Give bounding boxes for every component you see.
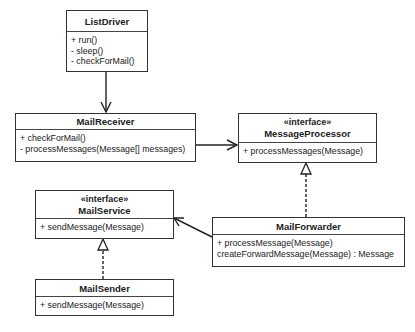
class-mailsender: MailSender + sendMessage(Message) bbox=[35, 279, 174, 316]
class-mailforwarder: MailForwarder + processMessage(Message) … bbox=[212, 217, 405, 267]
class-methods: + sendMessage(Message) bbox=[36, 297, 173, 313]
method: + processMessage(Message) bbox=[217, 238, 400, 249]
edge-listdriver-to-mailreceiver bbox=[101, 71, 111, 112]
class-header: MailSender bbox=[36, 280, 173, 297]
class-messageprocessor: «interface» MessageProcessor + processMe… bbox=[238, 113, 377, 163]
method: - checkForMail() bbox=[71, 56, 143, 67]
edge-mailreceiver-to-messageprocessor bbox=[195, 140, 237, 150]
method: + sendMessage(Message) bbox=[40, 300, 169, 311]
class-mailservice: «interface» MailService + sendMessage(Me… bbox=[35, 190, 174, 239]
method: + sendMessage(Message) bbox=[40, 222, 169, 233]
class-header: ListDriver bbox=[67, 11, 147, 32]
stereotype: «interface» bbox=[36, 194, 173, 205]
method: + processMessages(Message) bbox=[243, 146, 372, 157]
class-methods: + processMessage(Message) createForwardM… bbox=[213, 235, 404, 261]
method: + run() bbox=[71, 35, 143, 46]
class-name: MailReceiver bbox=[16, 116, 195, 127]
class-methods: + checkForMail() - processMessages(Messa… bbox=[16, 130, 195, 156]
edge-mailforwarder-to-mailservice bbox=[174, 218, 212, 237]
class-mailreceiver: MailReceiver + checkForMail() - processM… bbox=[15, 113, 196, 162]
method: - sleep() bbox=[71, 46, 143, 57]
class-name: MessageProcessor bbox=[239, 128, 376, 139]
class-header: MailForwarder bbox=[213, 218, 404, 235]
class-methods: + sendMessage(Message) bbox=[36, 219, 173, 235]
edge-mailsender-realizes-mailservice bbox=[98, 239, 108, 279]
class-methods: + run() - sleep() - checkForMail() bbox=[67, 32, 147, 69]
method: + checkForMail() bbox=[20, 133, 191, 144]
class-listdriver: ListDriver + run() - sleep() - checkForM… bbox=[66, 10, 148, 72]
class-name: MailSender bbox=[36, 283, 173, 294]
class-methods: + processMessages(Message) bbox=[239, 143, 376, 159]
method: - processMessages(Message[] messages) bbox=[20, 144, 191, 155]
class-name: MailService bbox=[36, 205, 173, 216]
edge-mailforwarder-realizes-messageprocessor bbox=[301, 163, 311, 217]
class-header: «interface» MessageProcessor bbox=[239, 114, 376, 143]
class-name: MailForwarder bbox=[213, 221, 404, 232]
class-header: «interface» MailService bbox=[36, 191, 173, 219]
method: createForwardMessage(Message) : Message bbox=[217, 249, 400, 260]
class-name: ListDriver bbox=[67, 16, 147, 27]
class-header: MailReceiver bbox=[16, 114, 195, 130]
stereotype: «interface» bbox=[239, 117, 376, 128]
